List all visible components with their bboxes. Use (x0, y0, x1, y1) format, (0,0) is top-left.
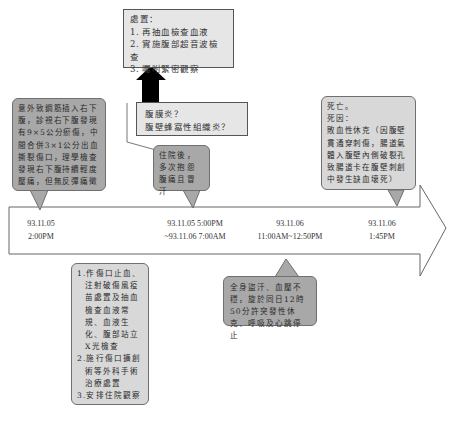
timeline-point-2: 93.11.05 5:00PM ~93.11.06 7:00AM (155, 217, 235, 243)
admission-text: 住院後，多次抱怨腹痛且冒汗 (159, 151, 196, 196)
actions-box: 處置： 1. 再抽血檢查血液 2. 實施腹部超音波檢查 3. 囑咐緊密觀察 (123, 9, 234, 68)
timeline-point-3: 93.11.06 11:00AM~12:50PM (250, 217, 330, 243)
pointer-shock (275, 259, 299, 277)
death-line-1: 死亡。 (327, 101, 410, 113)
diagnosis-line-1: 腹膜炎？ (145, 108, 239, 121)
timeline-point-4: 93.11.06 1:45PM (362, 217, 402, 243)
actions-title: 處置： (130, 13, 227, 26)
treatment-item-3: 3.安排住院觀察 (77, 390, 144, 402)
treatment-item-2: 2.施行傷口擴創術等外科手術治療處置 (77, 353, 144, 390)
treatment-item-1: 1.作傷口止血、注射破傷風疫苗處置及抽血檢查血液常規、血液生化、腹部站立X光檢查 (77, 268, 144, 353)
timeline-point-1: 93.11.05 2:00PM (22, 217, 60, 243)
callout-injury: 意外致鋼筋插入右下腹，診視右下腹發現有9×5公分瘀傷，中間合併3×1公分出血撕裂… (12, 98, 106, 191)
actions-item-2: 2. 實施腹部超音波檢查 (130, 38, 227, 63)
callout-admission: 住院後，多次抱怨腹痛且冒汗 (153, 145, 210, 191)
pointer-death (388, 190, 404, 206)
actions-item-3: 3. 囑咐緊密觀察 (130, 63, 227, 76)
death-line-3: 敗血性休克（因腹壁貫通穿刺傷，腸道氣體入腹壁內側破裂孔致腸道卡在腹壁刺創中發生缺… (327, 125, 410, 186)
diagnosis-box: 腹膜炎？ 腹壁蜂窩性組織炎？ (136, 102, 248, 136)
callout-shock: 全身盜汗、血壓不穩，旋於同日12時50分許突發性休克、呼吸及心跳停止 (223, 276, 317, 326)
pointer-admission (183, 190, 200, 208)
callout-treatment: 1.作傷口止血、注射破傷風疫苗處置及抽血檢查血液常規、血液生化、腹部站立X光檢查… (71, 263, 149, 405)
diagnosis-line-2: 腹壁蜂窩性組織炎？ (145, 121, 239, 134)
injury-text: 意外致鋼筋插入右下腹，診視右下腹發現有9×5公分瘀傷，中間合併3×1公分出血撕裂… (18, 104, 99, 186)
actions-item-1: 1. 再抽血檢查血液 (130, 26, 227, 39)
death-line-2: 死因： (327, 113, 410, 125)
callout-death: 死亡。 死因： 敗血性休克（因腹壁貫通穿刺傷，腸道氣體入腹壁內側破裂孔致腸道卡在… (321, 96, 416, 190)
